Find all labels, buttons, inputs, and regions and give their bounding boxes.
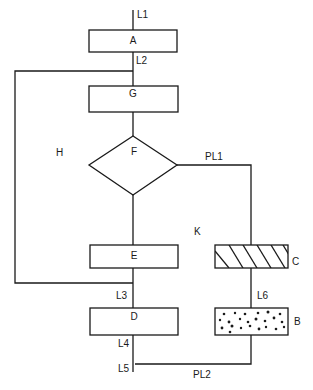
line-pl2 — [135, 335, 251, 364]
label-pl2: PL2 — [193, 369, 211, 380]
label-l3: L3 — [116, 290, 128, 301]
node-f-decision: F — [89, 136, 177, 195]
node-b-label: B — [294, 316, 301, 327]
label-l1: L1 — [137, 9, 149, 20]
node-a: A — [89, 30, 177, 52]
node-g: G — [89, 86, 178, 112]
region-label-h: H — [56, 147, 63, 158]
label-l5: L5 — [118, 363, 130, 374]
node-d-label: D — [130, 311, 137, 322]
node-c-hatched: C — [215, 245, 299, 268]
node-e: E — [90, 245, 178, 268]
label-l4: L4 — [118, 338, 130, 349]
region-label-k: K — [194, 226, 201, 237]
node-a-label: A — [130, 35, 137, 46]
node-b-stippled: B — [215, 308, 301, 335]
node-d: D — [90, 308, 178, 335]
line-pl1 — [177, 165, 251, 245]
node-c-label: C — [292, 256, 299, 267]
node-f-label: F — [131, 146, 137, 157]
node-e-label: E — [131, 250, 138, 261]
flow-diagram: A G F E D C — [0, 0, 313, 390]
label-l6: L6 — [257, 290, 269, 301]
node-g-label: G — [129, 88, 137, 99]
label-l2: L2 — [136, 55, 148, 66]
label-pl1: PL1 — [205, 151, 223, 162]
